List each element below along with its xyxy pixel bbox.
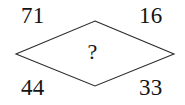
corner-value-bottom-left: 44 (21, 76, 44, 99)
center-unknown-value: ? (0, 41, 185, 63)
corner-value-top-left: 71 (21, 4, 44, 27)
corner-value-bottom-right: 33 (139, 76, 162, 99)
number-puzzle-figure: 71 16 44 33 ? (0, 0, 185, 105)
corner-value-top-right: 16 (139, 4, 162, 27)
